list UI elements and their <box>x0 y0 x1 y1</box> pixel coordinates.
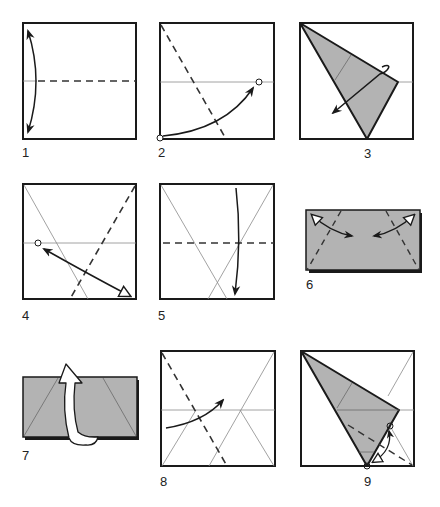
reference-point-icon <box>157 135 163 141</box>
step-label-5: 5 <box>158 308 165 323</box>
step-2 <box>157 23 274 141</box>
step-5 <box>160 184 274 299</box>
origami-diagram: 3 <box>0 0 440 507</box>
step-4 <box>23 184 136 299</box>
step-label-2: 2 <box>158 145 165 160</box>
step-8 <box>161 351 275 466</box>
step-label-9: 9 <box>364 474 371 489</box>
target-point-icon <box>256 79 262 85</box>
reference-point-icon <box>35 240 41 246</box>
step-label-7: 7 <box>22 448 29 463</box>
step-label-1: 1 <box>22 145 29 160</box>
step-6 <box>306 210 422 273</box>
step-label-4: 4 <box>22 308 29 323</box>
step-label-6: 6 <box>306 277 313 292</box>
step-1 <box>23 23 136 139</box>
step-9 <box>301 351 414 469</box>
step-label-8: 8 <box>160 474 167 489</box>
step-7 <box>23 364 139 445</box>
step-3 <box>300 23 413 139</box>
step-label-3: 3 <box>364 146 371 161</box>
